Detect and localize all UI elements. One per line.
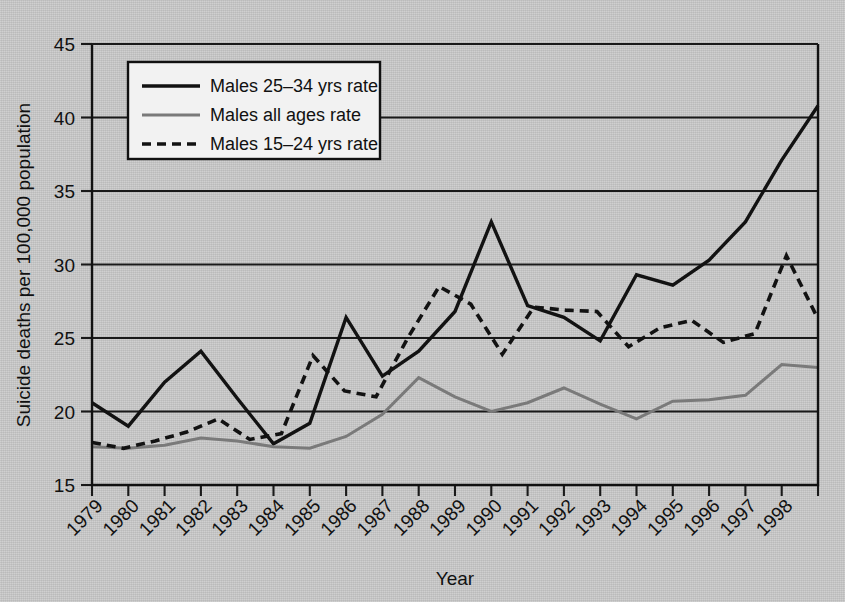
x-tick-label: 1984 [244,495,289,540]
x-axis-ticks [92,485,818,496]
x-tick-label: 1998 [752,495,797,540]
y-tick-label: 35 [54,181,75,202]
x-tick-label: 1993 [570,495,615,540]
x-tick-label: 1981 [135,495,180,540]
figure-background: 15202530354045 1979198019811982198319841… [0,0,845,602]
y-axis-ticks [81,44,92,485]
y-tick-label: 30 [54,255,75,276]
y-axis-tick-labels: 15202530354045 [54,34,75,496]
legend-label: Males 15–24 yrs rate [210,134,378,154]
series-line [92,365,818,449]
x-tick-label: 1988 [389,495,434,540]
x-tick-label: 1995 [643,495,688,540]
y-tick-label: 20 [54,402,75,423]
x-tick-label: 1982 [171,495,216,540]
x-axis-tick-labels: 1979198019811982198319841985198619871988… [62,495,796,540]
legend-label: Males all ages rate [210,105,361,125]
x-axis-title: Year [436,568,475,589]
y-tick-label: 40 [54,108,75,129]
x-tick-label: 1979 [62,495,107,540]
x-tick-label: 1996 [679,495,724,540]
y-tick-label: 15 [54,475,75,496]
legend-label: Males 25–34 yrs rate [210,76,378,96]
x-tick-label: 1990 [461,495,506,540]
x-tick-label: 1989 [425,495,470,540]
line-chart: 15202530354045 1979198019811982198319841… [0,0,845,602]
x-tick-label: 1980 [98,495,143,540]
y-tick-label: 25 [54,328,75,349]
x-tick-label: 1997 [715,495,760,540]
x-tick-label: 1983 [207,495,252,540]
x-tick-label: 1992 [534,495,579,540]
x-tick-label: 1994 [607,495,652,540]
y-tick-label: 45 [54,34,75,55]
legend: Males 25–34 yrs rateMales all ages rateM… [128,62,380,159]
y-axis-title: Suicide deaths per 100,000 population [13,103,34,427]
x-tick-label: 1986 [316,495,361,540]
x-tick-label: 1991 [498,495,543,540]
x-tick-label: 1985 [280,495,325,540]
x-tick-label: 1987 [352,495,397,540]
